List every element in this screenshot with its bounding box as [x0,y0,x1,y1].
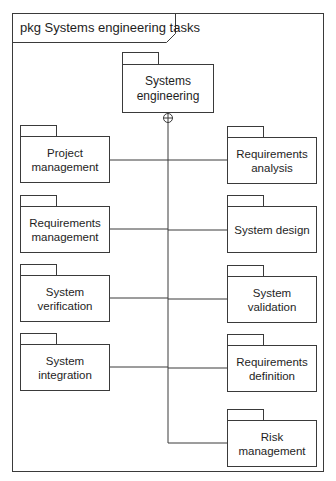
package-label: System verification [38,285,93,313]
package-body: Risk management [227,420,317,467]
package-label: Requirements analysis [236,147,308,175]
package-label: System validation [248,286,297,314]
package-body: System design [227,206,317,253]
package-body: Project management [20,136,110,183]
package-body: Requirements analysis [227,137,317,184]
package-label: Systems engineering [137,74,200,104]
package-body: System validation [227,276,317,323]
package-diagram: pkg Systems engineering tasks Systems en… [0,0,336,481]
package-body: Requirements definition [227,345,317,392]
package-label: System integration [38,354,92,382]
package-body: Requirements management [20,206,110,253]
package-body: Systems engineering [122,64,214,113]
package-label: Risk management [238,430,305,458]
package-label: System design [234,223,309,237]
package-label: Project management [31,146,98,174]
package-label: Requirements definition [236,355,308,383]
package-body: System verification [20,275,110,322]
frame-title: pkg Systems engineering tasks [20,20,200,36]
package-label: Requirements management [29,216,101,244]
package-body: System integration [20,344,110,391]
frame-name-tab: pkg Systems engineering tasks [12,13,176,43]
